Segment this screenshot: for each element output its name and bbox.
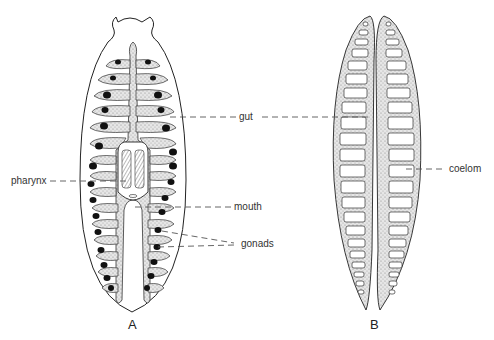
panel-label-b: B [370,318,379,331]
label-mouth: mouth [234,202,262,212]
pharynx [118,142,148,200]
diagram-figure [0,0,494,340]
label-gonads: gonads [241,239,274,249]
mouth-opening [129,195,137,198]
panel-a-organism [80,17,186,312]
label-gut: gut [239,112,253,122]
label-coelom: coelom [449,164,481,174]
panel-label-a: A [128,318,137,331]
panel-b-section [333,16,421,310]
label-pharynx: pharynx [11,176,47,186]
